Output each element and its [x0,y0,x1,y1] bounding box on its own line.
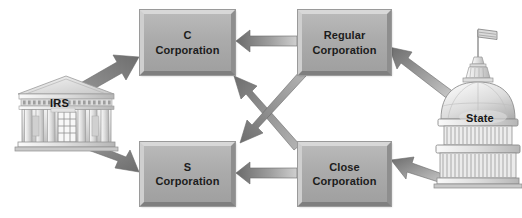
irs-label: IRS [50,97,69,109]
node-c-corporation[interactable]: C Corporation [140,10,235,75]
capitol-dome-building-icon [434,29,522,188]
node-c-corporation-label: C Corporation [155,28,219,56]
node-close-corporation[interactable]: Close Corporation [298,142,391,206]
institution-icon-layer [0,0,522,218]
node-regular-corporation[interactable]: Regular Corporation [298,10,391,75]
state-label: State [466,112,494,124]
diagram-canvas: IRS State C Corporation Regular Corporat… [0,0,522,218]
node-s-corporation-label: S Corporation [155,160,219,188]
node-close-corporation-label: Close Corporation [312,160,376,188]
classical-government-building-icon [15,76,118,151]
node-regular-corporation-label: Regular Corporation [312,28,376,56]
node-s-corporation[interactable]: S Corporation [140,142,235,206]
